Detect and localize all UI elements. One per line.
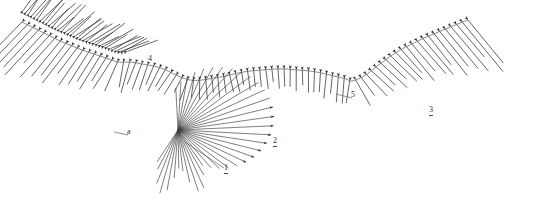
normal-vector-arrow (242, 72, 244, 85)
normal-vector-arrow (331, 76, 333, 94)
normal-vector-arrow (260, 70, 262, 87)
focal-ray (176, 88, 178, 130)
normal-vector-arrow (417, 41, 446, 74)
callout-5: 5 (351, 91, 355, 100)
callout-4: 4 (148, 55, 152, 64)
normal-vector-arrow (284, 69, 285, 87)
profile-stroke (22, 20, 468, 81)
normal-vector-arrow (224, 76, 226, 92)
normal-vector-arrow (356, 80, 371, 106)
normal-vector-arrow (366, 74, 387, 96)
normal-vector-arrow (105, 62, 118, 91)
normal-vector-arrow (440, 31, 468, 66)
callout-3: 3 (429, 106, 433, 116)
normal-vector-arrow (127, 40, 157, 51)
normal-vector-arrow (346, 81, 350, 103)
focal-ray (178, 130, 271, 135)
normal-vector-arrow (457, 24, 485, 57)
normal-vector-arrow (396, 53, 423, 80)
normal-vector-arrow (376, 67, 395, 85)
normal-vector-arrow (45, 0, 65, 21)
normal-vector-arrow (314, 72, 315, 93)
normal-vector-arrow (266, 70, 268, 89)
focal-ray (178, 76, 251, 130)
callout-6: a (127, 128, 131, 137)
valley-profile-curve (22, 20, 468, 81)
normal-vector-arrow (468, 20, 503, 63)
callout-leader-line (114, 132, 128, 135)
normal-vector-arrow (139, 65, 147, 90)
normal-vector-arrow (336, 77, 338, 102)
normal-vector-arrow (42, 46, 71, 83)
normal-vector-arrow (230, 75, 234, 92)
normal-vector-arrow (0, 27, 33, 66)
normal-vector-arrow (158, 72, 171, 91)
normal-vector-arrow (451, 27, 488, 71)
callout-1: 1 (224, 164, 228, 174)
normal-vector-arrow (66, 18, 83, 31)
normal-vector-arrow (236, 74, 240, 93)
normal-vector-arrow (248, 71, 251, 90)
normal-vector-arrow (124, 38, 147, 51)
normal-vector-arrow (77, 54, 94, 81)
focal-ray (158, 130, 178, 169)
normal-vector-arrow (342, 79, 344, 104)
normal-vector-arrow (69, 12, 94, 33)
focal-ray (167, 130, 178, 190)
normal-vector-arrow (391, 56, 417, 81)
normal-vector-arrow (278, 69, 279, 89)
normal-vector-arrow (272, 69, 273, 82)
callout-2: 2 (273, 137, 277, 147)
normal-vector-arrow (119, 62, 123, 87)
normal-vector-arrow (0, 22, 22, 53)
focal-fan-rays (157, 67, 275, 193)
normal-vector-arrow (386, 60, 407, 80)
normal-vector-arrow (98, 23, 125, 44)
normal-vector-arrow (324, 74, 327, 98)
focal-ray (178, 130, 204, 188)
figure-root: 12345a (0, 0, 540, 202)
normal-vector-arrow (32, 41, 61, 76)
normal-vector-arrow (206, 80, 208, 100)
normal-vector-arrow (218, 77, 220, 97)
normal-vector-arrow (423, 39, 453, 75)
normal-vector-arrow (319, 73, 320, 92)
normal-vector-arrow (58, 48, 77, 73)
normal-vector-arrow (148, 68, 160, 92)
normal-vector-arrow (92, 58, 106, 81)
normal-vector-arrow (23, 0, 43, 10)
normal-vector-arrow (121, 62, 130, 93)
normal-vector-arrow (79, 18, 101, 37)
vector-field-canvas (0, 0, 540, 202)
normal-vector-arrows (0, 0, 503, 106)
focal-ray (157, 130, 178, 184)
callout-leader-lines (114, 94, 352, 168)
normal-vector-arrow (63, 5, 86, 30)
normal-vector-arrow (26, 0, 39, 12)
callout-leader-line (336, 94, 352, 98)
normal-vector-arrow (104, 29, 133, 46)
